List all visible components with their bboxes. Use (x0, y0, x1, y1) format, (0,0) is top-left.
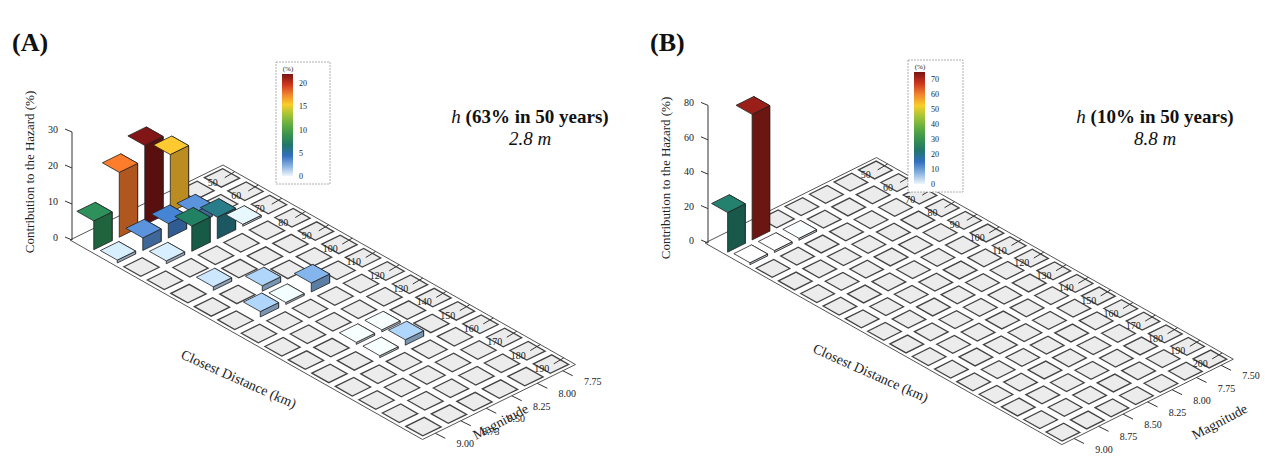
colorbar-tick-label: 10 (931, 165, 939, 174)
distance-tick-label: 190 (1170, 345, 1185, 356)
colorbar: (%)05101520 (276, 62, 330, 184)
distance-tick-label: 80 (278, 217, 288, 228)
distance-tick-label: 200 (1193, 358, 1208, 369)
z-axis: 020406080Contribution to the Hazard (%) (658, 97, 708, 259)
magnitude-tick-label: 8.00 (1193, 395, 1211, 406)
hazard-value: 2.8 m (425, 128, 635, 150)
distance-tick-label: 50 (208, 177, 218, 188)
colorbar-tick-label: 20 (931, 150, 939, 159)
hazard-title: h (63% in 50 years) (425, 106, 635, 128)
distance-tick-label: 180 (1148, 333, 1163, 344)
z-axis-label: Contribution to the Hazard (%) (658, 97, 673, 259)
magnitude-tick-label: 9.00 (457, 438, 475, 449)
distance-tick-label: 100 (970, 232, 985, 243)
distance-tick-label: 90 (302, 230, 312, 241)
z-axis-label: Contribution to the Hazard (%) (22, 91, 37, 253)
z-tick-label: 20 (684, 201, 694, 212)
distance-tick-label: 160 (1103, 308, 1118, 319)
panel-a-hazard-annotation: h (63% in 50 years) 2.8 m (425, 106, 635, 150)
hazard-probability: (63% in 50 years) (466, 106, 609, 127)
hazard-title: h (10% in 50 years) (1050, 106, 1260, 128)
colorbar-tick-label: 20 (299, 79, 307, 88)
z-tick-label: 60 (684, 132, 694, 143)
distance-tick-label: 60 (883, 182, 893, 193)
colorbar-unit: (%) (915, 63, 926, 71)
z-tick-label: 80 (684, 97, 694, 108)
distance-tick-label: 180 (511, 350, 526, 361)
magnitude-tick-label: 7.75 (584, 376, 602, 387)
hazard-symbol: h (1076, 106, 1086, 127)
magnitude-tick-label: 8.00 (559, 388, 577, 399)
z-axis: 0102030Contribution to the Hazard (%) (22, 91, 72, 253)
z-tick-label: 0 (689, 235, 694, 246)
colorbar-tick-label: 5 (299, 149, 303, 158)
colorbar: (%)010203040506070 (908, 60, 963, 192)
magnitude-tick-label: 7.50 (1242, 370, 1260, 381)
distance-tick-label: 90 (950, 219, 960, 230)
panel-b-label: (B) (650, 28, 685, 58)
distance-tick-label: 150 (1081, 295, 1096, 306)
distance-tick-label: 130 (1037, 270, 1052, 281)
distance-tick-label: 170 (487, 336, 502, 347)
distance-tick-label: 70 (255, 203, 265, 214)
colorbar-tick-label: 0 (299, 172, 303, 181)
z-tick-label: 30 (48, 124, 58, 135)
distance-tick-label: 110 (346, 256, 361, 267)
hazard-value: 8.8 m (1050, 128, 1260, 150)
hazard-probability: (10% in 50 years) (1091, 106, 1234, 127)
distance-tick-label: 120 (370, 270, 385, 281)
z-tick-label: 20 (48, 160, 58, 171)
colorbar-tick-label: 60 (931, 90, 939, 99)
colorbar-tick-label: 10 (299, 126, 307, 135)
chart-a-3d-bars: 5060708090100110120130140150160170180190… (0, 0, 632, 472)
distance-tick-label: 150 (440, 310, 455, 321)
distance-tick-label: 120 (1014, 257, 1029, 268)
panel-b: 5060708090100110120130140150160170180190… (632, 0, 1265, 472)
distance-tick-label: 170 (1126, 320, 1141, 331)
z-tick-label: 10 (48, 196, 58, 207)
z-tick-label: 40 (684, 166, 694, 177)
distance-tick-label: 140 (1059, 282, 1074, 293)
magnitude-tick-label: 8.25 (533, 401, 551, 412)
colorbar-tick-label: 0 (931, 180, 935, 189)
magnitude-tick-label: 8.50 (1144, 419, 1162, 430)
colorbar-tick-label: 40 (931, 120, 939, 129)
distance-tick-label: 130 (393, 283, 408, 294)
distance-tick-label: 190 (534, 363, 549, 374)
distance-tick-label: 140 (417, 296, 432, 307)
panel-a: 5060708090100110120130140150160170180190… (0, 0, 632, 472)
distance-tick-label: 100 (323, 243, 338, 254)
magnitude-tick-label: 7.75 (1218, 383, 1236, 394)
magnitude-tick-label: 8.25 (1169, 407, 1187, 418)
colorbar-tick-label: 50 (931, 105, 939, 114)
colorbar-tick-label: 30 (931, 135, 939, 144)
distance-tick-label: 80 (928, 207, 938, 218)
magnitude-tick-label: 8.75 (1120, 431, 1138, 442)
magnitude-tick-label: 9.00 (1095, 444, 1113, 455)
hazard-symbol: h (451, 106, 461, 127)
panel-a-label: (A) (12, 28, 48, 58)
colorbar-tick-label: 70 (931, 75, 939, 84)
colorbar-tick-label: 15 (299, 102, 307, 111)
chart-b-3d-bars: 5060708090100110120130140150160170180190… (632, 0, 1265, 472)
magnitude-axis-label: Magnitude (1189, 401, 1250, 443)
distance-tick-label: 70 (905, 194, 915, 205)
distance-tick-label: 160 (464, 323, 479, 334)
z-tick-label: 0 (53, 232, 58, 243)
panel-b-hazard-annotation: h (10% in 50 years) 8.8 m (1050, 106, 1260, 150)
grid-floor (705, 158, 1233, 445)
distance-tick-label: 60 (231, 190, 241, 201)
distance-tick-label: 50 (861, 169, 871, 180)
distance-tick-label: 110 (992, 245, 1007, 256)
colorbar-unit: (%) (283, 65, 294, 73)
